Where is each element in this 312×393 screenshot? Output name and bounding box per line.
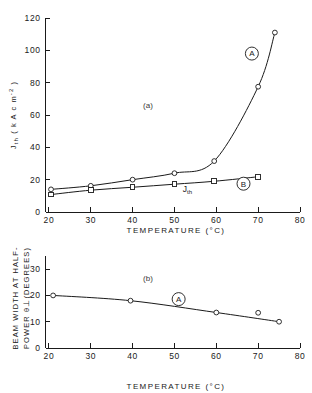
callout-b: B	[237, 177, 250, 190]
x-tick-label: 60	[211, 215, 222, 225]
chart-b-axes: 0102030 20304050607080	[30, 256, 305, 361]
series-a-markers	[49, 30, 278, 192]
x-tick-label: 60	[211, 351, 222, 361]
chart-panel-b: 0102030 20304050607080 A (b) TEMPERATURE…	[0, 236, 312, 393]
data-point-marker	[256, 310, 261, 315]
data-point-marker	[256, 174, 261, 179]
series-b-inline-label: Jth	[183, 184, 192, 195]
y-tick-label: 0	[35, 207, 40, 217]
jth-subscript: th	[187, 189, 192, 195]
data-point-marker	[130, 185, 135, 190]
x-tick-label: 20	[44, 215, 55, 225]
chart-a-series	[49, 30, 278, 197]
data-point-marker	[172, 171, 177, 176]
callout-b-label: B	[241, 180, 246, 189]
y-axis-ticks-a: 020406080100120	[25, 13, 50, 217]
data-point-marker	[214, 310, 219, 315]
data-point-marker	[212, 159, 217, 164]
y-axis-title-a: Jth ( k A c m-2 )	[8, 81, 19, 149]
x-tick-label: 50	[169, 215, 180, 225]
x-tick-label: 80	[295, 215, 306, 225]
chart-b-series	[51, 293, 282, 324]
y-axis-title-b-line1: BEAM WIDTH AT HALF-	[11, 246, 20, 349]
data-point-marker	[256, 84, 261, 89]
y-axis-title-b-line2: POWER θ⊥(DEGREES)	[22, 247, 31, 349]
data-point-marker	[51, 293, 56, 298]
jth-axis-unit-close: )	[9, 81, 18, 88]
y-tick-label: 20	[30, 290, 41, 300]
callout-a-label-b: A	[176, 295, 182, 304]
x-tick-label: 80	[295, 351, 306, 361]
y-axis-ticks-b: 0102030	[30, 264, 50, 353]
data-point-marker	[88, 188, 93, 193]
series-b-curve	[51, 177, 258, 195]
x-axis-title-b: TEMPERATURE (°C)	[127, 382, 226, 391]
jth-axis-unit-open: ( k A c m	[9, 95, 18, 137]
series-a-curve-b	[53, 295, 279, 321]
figure-container: 020406080100120 20304050607080 A B Jth (…	[0, 0, 312, 393]
data-point-marker	[212, 179, 217, 184]
callout-a-label: A	[249, 49, 255, 58]
data-point-marker	[49, 187, 54, 192]
x-tick-label: 30	[85, 351, 96, 361]
x-tick-label: 70	[253, 215, 264, 225]
chart-b-annotations: A (b)	[143, 274, 185, 306]
y-tick-label: 40	[30, 142, 41, 152]
data-point-marker	[128, 298, 133, 303]
panel-label-a: (a)	[143, 101, 153, 110]
jth-axis-unit-exponent: -2	[8, 88, 14, 96]
data-point-marker	[130, 177, 135, 182]
x-tick-label: 40	[127, 215, 138, 225]
x-axis-title-a: TEMPERATURE (°C)	[127, 226, 226, 235]
y-tick-label: 10	[30, 317, 41, 327]
panel-label-b: (b)	[143, 274, 153, 283]
y-tick-label: 80	[30, 78, 41, 88]
y-tick-label: 120	[25, 13, 41, 23]
x-tick-label: 70	[253, 351, 264, 361]
data-point-marker	[49, 192, 54, 197]
y-tick-label: 100	[25, 45, 41, 55]
data-point-marker	[172, 182, 177, 187]
x-axis-ticks-b: 20304050607080	[44, 343, 306, 361]
data-point-marker	[272, 30, 277, 35]
x-tick-label: 40	[127, 351, 138, 361]
x-tick-label: 50	[169, 351, 180, 361]
series-a-curve	[51, 33, 275, 190]
y-tick-label: 30	[30, 264, 41, 274]
chart-panel-a: 020406080100120 20304050607080 A B Jth (…	[0, 0, 312, 240]
callout-a: A	[245, 47, 258, 60]
data-point-marker	[277, 319, 282, 324]
chart-b-labels: TEMPERATURE (°C) BEAM WIDTH AT HALF- POW…	[11, 246, 225, 391]
y-tick-label: 20	[30, 175, 41, 185]
jth-axis-subscript: th	[13, 137, 19, 144]
x-tick-label: 30	[85, 215, 96, 225]
x-tick-label: 20	[44, 351, 55, 361]
y-tick-label: 0	[35, 343, 40, 353]
x-axis-ticks-a: 20304050607080	[44, 207, 306, 225]
callout-a-b: A	[172, 293, 185, 306]
y-tick-label: 60	[30, 110, 41, 120]
